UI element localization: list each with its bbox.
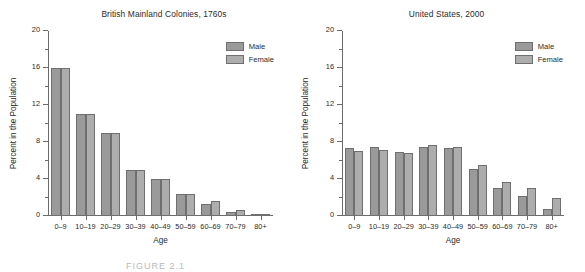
bar-male[interactable] [469, 169, 478, 216]
y-tick-label: 16 [326, 62, 334, 71]
legend-item-male: Male [226, 42, 274, 51]
bar-female[interactable] [552, 198, 561, 217]
y-tick: 16 [43, 67, 48, 68]
x-tick [61, 216, 62, 220]
bar-female[interactable] [186, 194, 195, 216]
bar-male[interactable] [201, 204, 210, 216]
bar-male[interactable] [493, 188, 502, 216]
bar-female[interactable] [111, 133, 120, 216]
bar-group [201, 31, 220, 216]
y-tick-label: 0 [330, 210, 334, 219]
y-tick: 12 [337, 104, 342, 105]
x-tick-label: 20–29 [394, 222, 414, 231]
x-tick-label: 30–39 [418, 222, 438, 231]
x-tick-labels: 0–910–1920–2930–3940–4950–5960–6970–7980… [342, 222, 564, 236]
y-tick-minor [45, 197, 48, 198]
y-tick-minor [45, 49, 48, 50]
y-axis-title: Percent in the Population [300, 31, 312, 216]
x-tick-label: 60–69 [492, 222, 512, 231]
bar-male[interactable] [518, 196, 527, 216]
bar-female[interactable] [453, 147, 462, 216]
bar-female[interactable] [527, 188, 536, 216]
bar-female[interactable] [354, 151, 363, 216]
bar-female[interactable] [404, 153, 413, 216]
bar-male[interactable] [226, 212, 235, 216]
bar-female[interactable] [428, 145, 437, 216]
bar-female[interactable] [211, 201, 220, 216]
bar-male[interactable] [51, 68, 60, 216]
x-tick [86, 216, 87, 220]
bar-female[interactable] [478, 165, 487, 216]
x-tick-label: 60–69 [200, 222, 220, 231]
bar-group [395, 31, 413, 216]
bar-female[interactable] [236, 210, 245, 216]
y-tick: 0 [337, 215, 342, 216]
y-tick-label: 20 [32, 25, 40, 34]
y-tick-minor [45, 123, 48, 124]
bar-male[interactable] [151, 179, 160, 216]
x-tick-label: 40–49 [443, 222, 463, 231]
bar-male[interactable] [126, 170, 135, 216]
x-tick-labels: 0–910–1920–2930–3940–4950–5960–6970–7980… [48, 222, 273, 236]
y-tick: 8 [337, 141, 342, 142]
bar-group [493, 31, 511, 216]
x-tick-label: 10–19 [369, 222, 389, 231]
x-tick-label: 0–9 [348, 222, 360, 231]
legend-item-female: Female [515, 55, 563, 64]
bar-group [151, 31, 170, 216]
x-tick [379, 216, 380, 220]
bar-female[interactable] [86, 114, 95, 216]
x-tick [236, 216, 237, 220]
bar-male[interactable] [444, 148, 453, 216]
bar-group [444, 31, 462, 216]
x-tick [428, 216, 429, 220]
bar-male[interactable] [76, 114, 85, 216]
bar-male[interactable] [419, 147, 428, 216]
legend-label-male: Male [538, 42, 554, 51]
legend-label-female: Female [538, 55, 563, 64]
x-tick [404, 216, 405, 220]
y-tick-label: 8 [330, 136, 334, 145]
x-tick [261, 216, 262, 220]
bar-female[interactable] [136, 170, 145, 216]
y-tick-minor [45, 86, 48, 87]
legend: Male Female [226, 42, 274, 64]
legend-label-male: Male [249, 42, 265, 51]
legend-swatch-male-icon [515, 42, 533, 51]
x-tick [186, 216, 187, 220]
bar-male[interactable] [251, 214, 260, 216]
bar-male[interactable] [101, 133, 110, 216]
x-tick [502, 216, 503, 220]
chart-title: British Mainland Colonies, 1760s [0, 9, 310, 19]
bar-group [469, 31, 487, 216]
x-axis-title: Age [48, 236, 273, 245]
legend-item-female: Female [226, 55, 274, 64]
legend-swatch-female-icon [226, 55, 244, 64]
x-tick-label: 70–79 [225, 222, 245, 231]
bar-male[interactable] [345, 148, 354, 216]
x-tick-label: 20–29 [100, 222, 120, 231]
x-tick [453, 216, 454, 220]
bar-group [345, 31, 363, 216]
bar-female[interactable] [261, 214, 270, 216]
bar-female[interactable] [61, 68, 70, 216]
bar-group [101, 31, 120, 216]
y-tick: 20 [337, 30, 342, 31]
y-axis-title-text: Percent in the Population [10, 78, 19, 170]
bar-male[interactable] [370, 147, 379, 216]
chart-panel-us: United States, 2000 Percent in the Popul… [292, 0, 585, 272]
bar-female[interactable] [502, 182, 511, 216]
bar-female[interactable] [379, 150, 388, 216]
bar-female[interactable] [161, 179, 170, 216]
bar-group [51, 31, 70, 216]
legend: Male Female [515, 42, 563, 64]
bar-group [176, 31, 195, 216]
x-tick [161, 216, 162, 220]
bar-group [126, 31, 145, 216]
bar-group [370, 31, 388, 216]
y-tick-label: 16 [32, 62, 40, 71]
bar-male[interactable] [543, 209, 552, 216]
bar-male[interactable] [176, 194, 185, 216]
bar-male[interactable] [395, 152, 404, 216]
y-tick-label: 4 [36, 173, 40, 182]
